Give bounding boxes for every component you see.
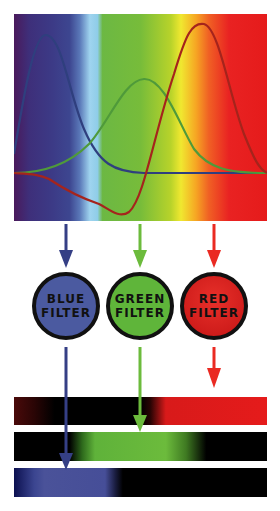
channel-arrows xyxy=(0,0,280,511)
green-arrow-to-bar-icon xyxy=(133,347,147,432)
red-arrow-to-bar-icon xyxy=(207,347,221,388)
blue-arrow-to-bar-icon xyxy=(59,347,73,470)
